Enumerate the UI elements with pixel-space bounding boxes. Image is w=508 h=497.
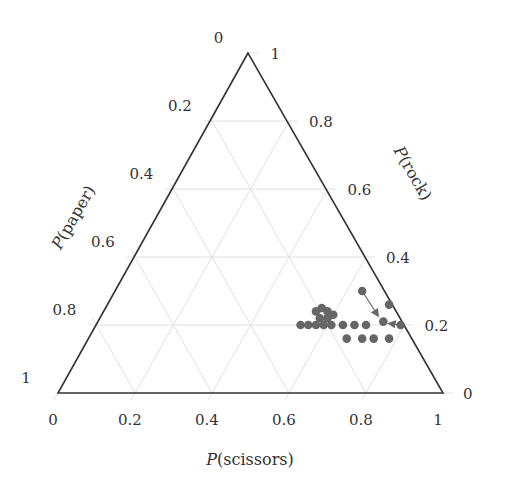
axis-label-rock: P(rock) [389, 142, 436, 204]
data-point [385, 300, 394, 309]
tick-label-paper: 1 [21, 369, 31, 387]
tick-label-scissors: 0.2 [118, 411, 142, 429]
data-point [369, 334, 378, 343]
data-point [396, 321, 405, 330]
grid-line-paper [93, 318, 136, 393]
data-point [358, 287, 367, 296]
tick-label-paper: 0.8 [53, 301, 77, 319]
data-point [385, 334, 394, 343]
tick-label-scissors: 1 [433, 411, 443, 429]
tick-label-rock: 0.2 [425, 317, 449, 335]
data-point [342, 334, 351, 343]
tick-label-paper: 0.2 [168, 97, 192, 115]
grid-line-scissors [208, 189, 328, 400]
tick-label-rock: 0.8 [309, 113, 333, 131]
data-point [316, 314, 325, 323]
ternary-plot: 00.20.40.60.8100.20.40.60.8100.20.40.60.… [0, 0, 508, 497]
tick-label-scissors: 0.4 [195, 411, 219, 429]
tick-label-scissors: 0 [48, 411, 58, 429]
data-point [296, 321, 305, 330]
data-point [304, 321, 313, 330]
tick-label-rock: 1 [271, 45, 281, 63]
tick-label-paper: 0.4 [130, 165, 154, 183]
data-point [358, 334, 367, 343]
triangle-outline [58, 53, 443, 393]
grid-lines [54, 53, 453, 400]
data-point [339, 321, 348, 330]
data-points [296, 287, 405, 343]
data-point [379, 317, 388, 326]
grid-line-scissors [131, 121, 289, 400]
grid-line-scissors [362, 325, 405, 400]
tick-label-rock: 0.6 [348, 181, 372, 199]
tick-label-paper: 0.6 [91, 233, 115, 251]
tick-label-scissors: 0.8 [349, 411, 373, 429]
grid-line-paper [131, 250, 212, 393]
tick-labels: 00.20.40.60.8100.20.40.60.8100.20.40.60.… [21, 29, 472, 429]
triangle-frame [58, 53, 443, 393]
tick-label-rock: 0.4 [386, 249, 410, 267]
data-point [362, 321, 371, 330]
grid-line-paper [170, 182, 290, 393]
tick-label-scissors: 0.6 [272, 411, 296, 429]
tick-label-paper: 0 [214, 29, 224, 47]
tick-stub [54, 393, 58, 400]
trajectory-arrow [362, 291, 378, 317]
data-point [350, 321, 359, 330]
axis-label-scissors: P(scissors) [205, 450, 293, 469]
tick-label-rock: 0 [463, 385, 473, 403]
data-point [329, 311, 338, 320]
grid-line-paper [208, 114, 366, 393]
